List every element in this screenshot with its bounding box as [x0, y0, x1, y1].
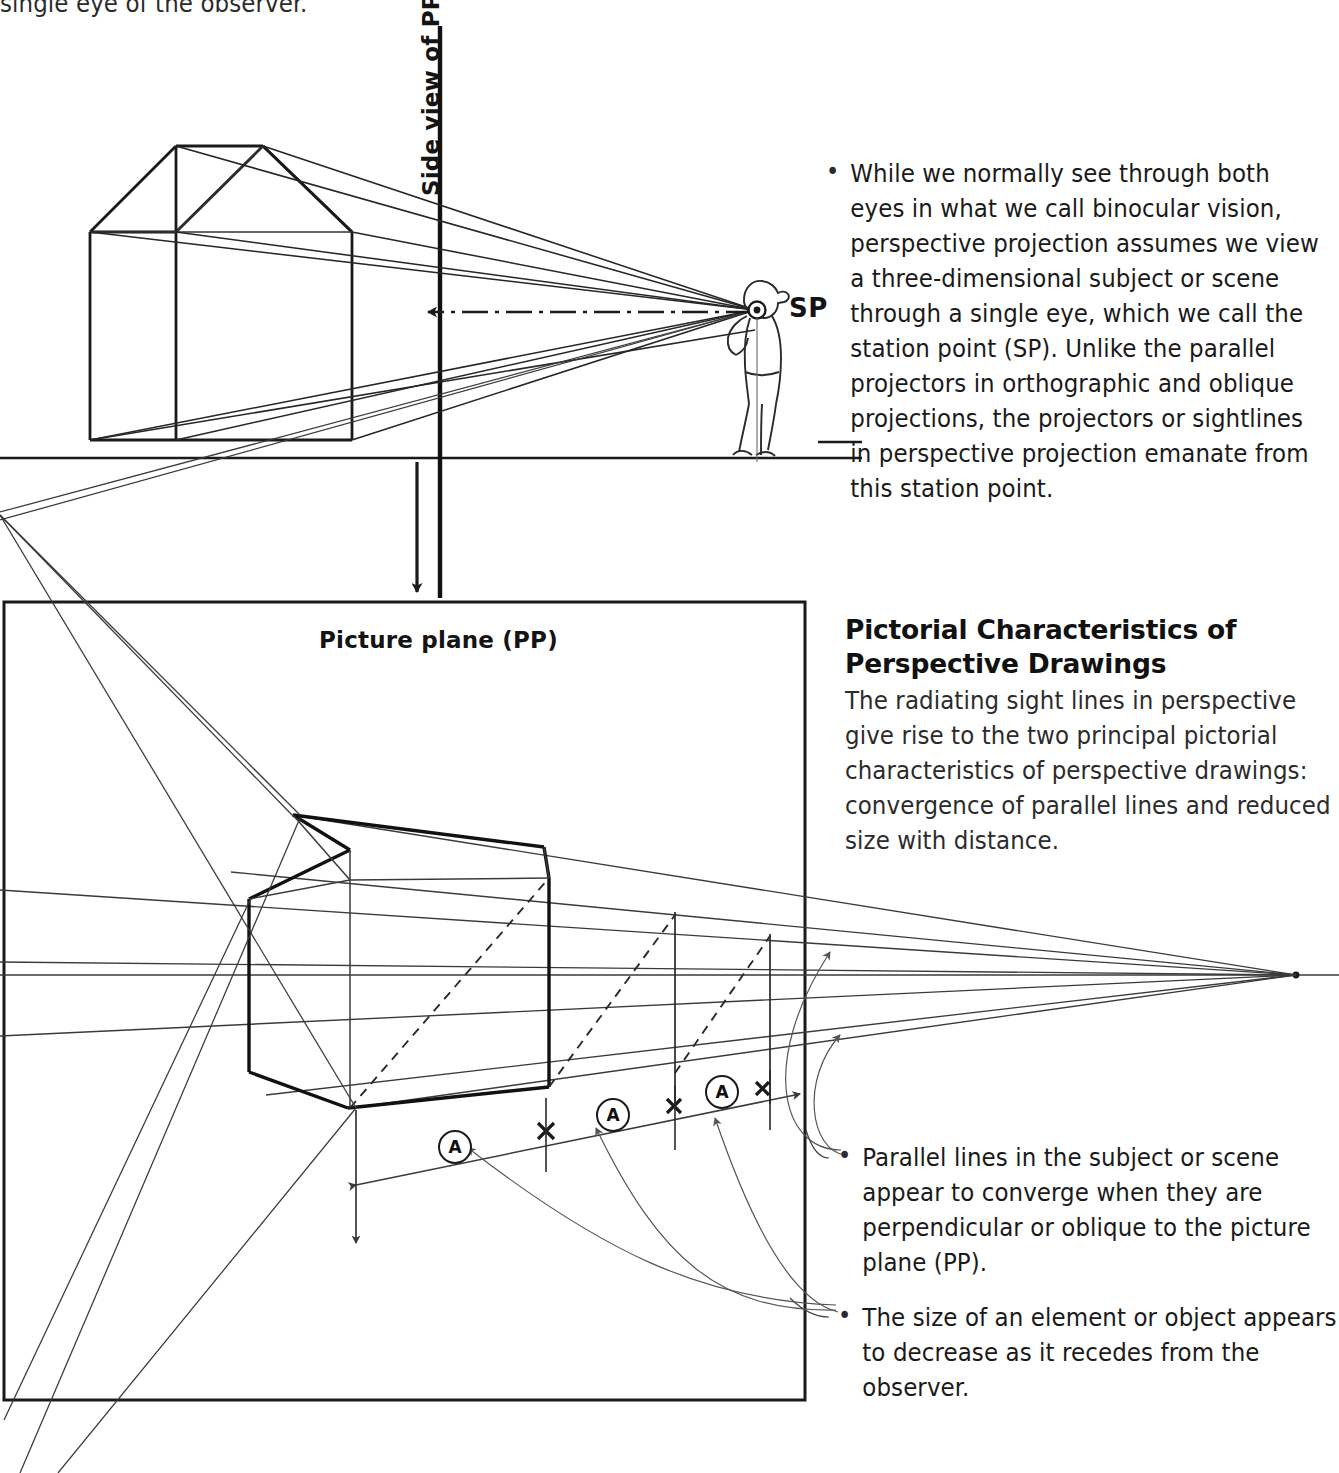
bullet-icon: •: [838, 1139, 851, 1173]
picture-plane-label: Picture plane (PP): [319, 627, 558, 653]
leader-to-convergence: [786, 952, 841, 1150]
dimension-line: [356, 1094, 800, 1185]
callout-leaders: [468, 952, 845, 1317]
callout-parallel-lines-text: Parallel lines in the subject or scene a…: [862, 1140, 1338, 1280]
figure-page: single eye of the observer. Side view of…: [0, 0, 1339, 1473]
caption-binocular-vision-text: While we normally see through both eyes …: [850, 156, 1331, 506]
measuring-diagonals: [350, 878, 770, 1108]
dimension-marker-a-1: A: [438, 1130, 472, 1164]
pictorial-characteristics-section: Pictorial Characteristics of Perspective…: [845, 613, 1339, 858]
plan-projectors: [0, 515, 356, 1473]
station-point-label: SP: [789, 293, 828, 323]
section-paragraph: The radiating sight lines in perspective…: [845, 683, 1339, 858]
bullet-icon: •: [838, 1299, 851, 1333]
projector-tails: [0, 310, 755, 520]
house-perspective: [249, 815, 770, 1108]
bullet-icon: •: [826, 155, 839, 189]
leader-to-marker-3: [715, 1118, 838, 1312]
callout-size-decrease-text: The size of an element or object appears…: [862, 1300, 1338, 1405]
side-view-of-pp-label: Side view of PP: [418, 0, 444, 196]
dimension-marker-a-3: A: [705, 1075, 739, 1109]
dimension-marker-a-2: A: [596, 1098, 630, 1132]
callout-parallel-lines: • Parallel lines in the subject or scene…: [838, 1140, 1338, 1280]
caption-binocular-vision: • While we normally see through both eye…: [826, 156, 1331, 506]
leader-to-marker-2: [596, 1128, 836, 1310]
leader-to-convergence-2: [814, 1035, 845, 1155]
section-heading: Pictorial Characteristics of Perspective…: [845, 613, 1339, 681]
callout-size-decrease: • The size of an element or object appea…: [838, 1300, 1338, 1405]
leader-to-marker-1: [468, 1148, 836, 1305]
